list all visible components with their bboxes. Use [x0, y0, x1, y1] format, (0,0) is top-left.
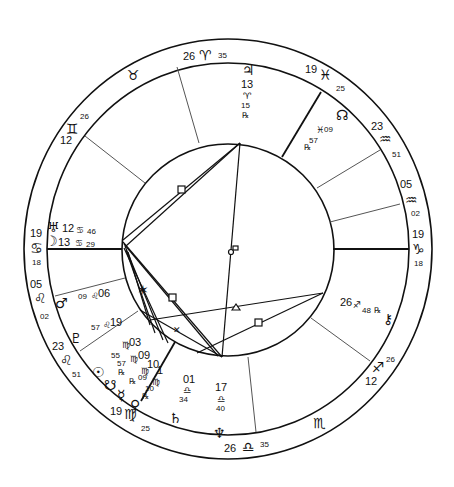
- conjunction-cluster-symbol: ✶: [137, 282, 149, 298]
- planet-mars: ♂ 09 ♌ 06: [55, 287, 110, 311]
- svg-text:℞: ℞: [129, 377, 136, 386]
- sextile-symbol: ✕: [173, 325, 181, 335]
- svg-text:40: 40: [216, 404, 225, 413]
- svg-text:♈: ♈: [199, 47, 212, 63]
- svg-text:05: 05: [30, 278, 42, 290]
- svg-text:48: 48: [362, 306, 371, 315]
- svg-text:57: 57: [91, 323, 100, 332]
- cusp-labels: 26 ♈ 35 19 ♓ 25 23 ♒ 51 05 ♒ 02 19 ♑ 18 …: [30, 47, 425, 455]
- svg-text:29: 29: [86, 240, 95, 249]
- svg-text:09: 09: [138, 373, 147, 382]
- svg-text:57: 57: [117, 359, 126, 368]
- planet-chiron: 26 ♐ 48 ℞ ⚷: [340, 296, 393, 327]
- svg-text:12: 12: [60, 134, 72, 146]
- svg-text:03: 03: [129, 336, 141, 348]
- svg-text:26: 26: [183, 50, 195, 62]
- svg-text:♀: ♀: [130, 397, 140, 413]
- svg-text:♆: ♆: [213, 425, 226, 441]
- svg-text:19: 19: [305, 63, 317, 75]
- svg-text:♉: ♉: [127, 67, 140, 83]
- svg-text:18: 18: [32, 258, 41, 267]
- svg-text:12: 12: [62, 222, 74, 234]
- svg-text:19: 19: [110, 405, 122, 417]
- svg-text:℞: ℞: [304, 143, 311, 152]
- svg-text:♋: ♋: [30, 240, 43, 256]
- svg-text:12: 12: [365, 375, 377, 387]
- svg-text:25: 25: [336, 84, 345, 93]
- svg-text:25: 25: [141, 424, 150, 433]
- svg-text:26: 26: [80, 112, 89, 121]
- svg-text:♎: ♎: [242, 439, 255, 455]
- svg-text:♃: ♃: [242, 62, 255, 78]
- svg-text:02: 02: [411, 209, 420, 218]
- svg-text:♒: ♒: [379, 131, 392, 147]
- svg-text:☊: ☊: [336, 107, 348, 123]
- svg-text:17: 17: [215, 381, 227, 393]
- svg-text:♌: ♌: [34, 290, 47, 306]
- svg-text:☿: ☿: [117, 387, 126, 403]
- aspect-circle: [122, 144, 334, 356]
- svg-text:♈: ♈: [243, 91, 252, 101]
- svg-text:♓: ♓: [316, 125, 324, 135]
- svg-text:♇: ♇: [70, 330, 83, 346]
- svg-text:35: 35: [218, 51, 227, 60]
- svg-text:♍: ♍: [130, 354, 138, 364]
- svg-text:⚷: ⚷: [383, 311, 393, 327]
- svg-text:06: 06: [98, 287, 110, 299]
- svg-text:18: 18: [414, 259, 423, 268]
- svg-text:15: 15: [241, 101, 250, 110]
- planet-jupiter: ♃ 13 ♈ 15 ℞: [241, 62, 255, 120]
- svg-text:09: 09: [78, 292, 87, 301]
- svg-text:26: 26: [224, 442, 236, 454]
- svg-text:26: 26: [386, 355, 395, 364]
- svg-text:♄: ♄: [169, 410, 182, 426]
- svg-text:℞: ℞: [242, 111, 249, 120]
- svg-text:☉: ☉: [92, 364, 105, 380]
- svg-text:♎: ♎: [217, 394, 225, 404]
- svg-text:♒: ♒: [405, 192, 418, 208]
- svg-text:℞: ℞: [142, 392, 149, 401]
- svg-text:♏: ♏: [313, 415, 326, 431]
- svg-text:02: 02: [40, 312, 49, 321]
- svg-text:19: 19: [30, 227, 42, 239]
- svg-text:♐: ♐: [372, 359, 385, 375]
- svg-text:♎: ♎: [183, 385, 191, 395]
- planet-neptune: 17 ♎ 40 ♆: [213, 381, 227, 441]
- svg-text:51: 51: [72, 370, 81, 379]
- svg-text:1: 1: [157, 364, 163, 376]
- svg-text:13: 13: [58, 236, 70, 248]
- svg-text:05: 05: [400, 178, 412, 190]
- svg-text:♌: ♌: [60, 352, 73, 368]
- svg-text:34: 34: [179, 395, 188, 404]
- natal-chart-wheel: ✕ ✶ 26 ♈ 35 19 ♓ 25 23 ♒ 51 05 ♒ 02 19 ♑…: [0, 0, 454, 487]
- svg-text:♐: ♐: [353, 300, 361, 310]
- svg-text:♓: ♓: [319, 67, 332, 83]
- svg-text:13: 13: [241, 78, 253, 90]
- svg-text:☽: ☽: [45, 233, 58, 249]
- svg-text:01: 01: [183, 373, 195, 385]
- svg-text:51: 51: [392, 150, 401, 159]
- svg-text:35: 35: [260, 440, 269, 449]
- svg-text:℞: ℞: [374, 306, 381, 315]
- svg-text:46: 46: [87, 227, 96, 236]
- planet-north-node: ☊ ♓ 09 57 ℞: [304, 107, 348, 152]
- svg-text:♋: ♋: [75, 238, 83, 248]
- planet-saturn: 01 ♎ 34 ♄: [169, 373, 195, 426]
- svg-text:19: 19: [412, 228, 424, 240]
- svg-text:℞: ℞: [118, 368, 125, 377]
- svg-text:♋: ♋: [76, 225, 84, 235]
- svg-text:☋: ☋: [104, 377, 116, 393]
- svg-text:23: 23: [52, 340, 64, 352]
- svg-text:26: 26: [340, 296, 352, 308]
- planet-pluto: ♇ 57 ♌ 19: [70, 316, 122, 346]
- svg-text:09: 09: [324, 125, 333, 134]
- svg-text:♑: ♑: [412, 241, 425, 257]
- svg-text:19: 19: [110, 316, 122, 328]
- svg-text:♂: ♂: [55, 295, 68, 311]
